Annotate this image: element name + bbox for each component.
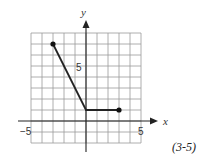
- closed-point: [116, 107, 121, 112]
- y-axis-arrow-icon: [83, 20, 90, 28]
- closed-point: [50, 41, 55, 46]
- x-axis-label: x: [162, 115, 168, 127]
- figure-caption: (3-5): [172, 140, 196, 155]
- x-max-tick-label: 5: [138, 126, 144, 137]
- x-axis-arrow-icon: [150, 118, 158, 125]
- y-tick-label: 5: [76, 62, 82, 73]
- y-axis-label: y: [80, 6, 86, 18]
- x-min-tick-label: −5: [20, 126, 32, 137]
